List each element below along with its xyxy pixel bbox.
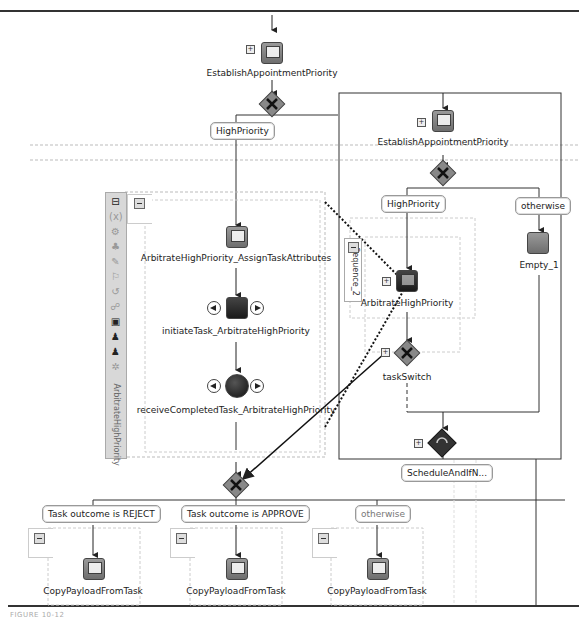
assign-node-reject[interactable] <box>83 558 105 580</box>
receive-node[interactable] <box>225 374 249 398</box>
next-arrow-icon[interactable] <box>250 379 264 393</box>
expand-icon[interactable]: + <box>414 439 423 448</box>
fault-handlers-icon[interactable]: ⚐ <box>109 270 122 283</box>
activity-label: EstablishAppointmentPriority <box>207 68 338 78</box>
activity-label: ArbitrateHighPriority_AssignTaskAttribut… <box>141 253 331 263</box>
case-reject[interactable]: Task outcome is REJECT <box>42 505 161 523</box>
invoke-node-establish-priority[interactable] <box>261 42 283 64</box>
event-handlers-icon[interactable]: ☍ <box>109 300 122 313</box>
human-task-node[interactable] <box>396 270 418 292</box>
correlation-icon[interactable]: ⚙ <box>109 225 122 238</box>
figure-caption: FIGURE 10-12 <box>10 611 65 619</box>
next-arrow-icon[interactable] <box>250 301 264 315</box>
human-task-alt-icon[interactable]: ♟ <box>109 345 122 358</box>
invoke-node-initiate-task[interactable] <box>226 297 248 319</box>
collapse-icon[interactable] <box>348 242 359 253</box>
activity-label: Empty_1 <box>519 260 558 270</box>
prev-arrow-icon[interactable] <box>207 379 221 393</box>
activity-label: CopyPayloadFromTask <box>327 586 427 596</box>
assign-node-otherwise[interactable] <box>367 558 389 580</box>
variables-icon[interactable]: (x) <box>109 210 122 223</box>
expand-icon[interactable]: + <box>417 118 426 127</box>
case-approve[interactable]: Task outcome is APPROVE <box>181 505 310 523</box>
scope-name-tab: ArbitrateHighPriority <box>108 383 124 453</box>
assign-node[interactable] <box>226 226 248 248</box>
collapse-icon[interactable] <box>318 533 329 544</box>
partner-links-icon[interactable]: ♣ <box>109 240 122 253</box>
collapse-icon[interactable] <box>176 533 187 544</box>
top-switch-gateway <box>259 91 284 116</box>
termination-icon[interactable]: ▣ <box>109 315 122 328</box>
collapse-icon[interactable] <box>134 198 145 209</box>
while-label[interactable]: ScheduleAndIfN... <box>401 464 493 482</box>
case-high-priority[interactable]: HighPriority <box>210 122 275 140</box>
case-otherwise-inner[interactable]: otherwise <box>515 197 571 215</box>
activity-label: CopyPayloadFromTask <box>43 586 143 596</box>
expand-icon[interactable]: + <box>246 45 255 54</box>
invoke-node-establish-priority-inner[interactable] <box>432 110 454 132</box>
prev-arrow-icon[interactable] <box>207 301 221 315</box>
empty-node[interactable] <box>527 232 549 254</box>
compensation-icon[interactable]: ↺ <box>109 285 122 298</box>
activity-label: ArbitrateHighPriority <box>361 298 454 308</box>
case-otherwise[interactable]: otherwise <box>355 505 411 523</box>
scope-toolbar: ⊟ (x) ⚙ ♣ ✎ ⚐ ↺ ☍ ▣ ♟ ♟ ✲ ArbitrateHighP… <box>105 192 127 459</box>
collapse-icon[interactable]: ⊟ <box>109 195 122 208</box>
activity-label: CopyPayloadFromTask <box>186 586 286 596</box>
case-high-priority-inner[interactable]: HighPriority <box>381 195 446 213</box>
activity-label: initiateTask_ArbitrateHighPriority <box>162 326 310 336</box>
activity-label: taskSwitch <box>383 372 432 382</box>
diagram-connectors <box>0 0 579 622</box>
settings-icon[interactable]: ✲ <box>109 360 122 373</box>
collapse-icon[interactable] <box>34 533 45 544</box>
activity-label: EstablishAppointmentPriority <box>378 137 509 147</box>
activity-label: receiveCompletedTask_ArbitrateHighPriori… <box>137 405 336 415</box>
human-task-icon[interactable]: ♟ <box>109 330 122 343</box>
expand-icon[interactable]: + <box>381 348 390 357</box>
expand-icon[interactable]: + <box>382 277 391 286</box>
assign-node-approve[interactable] <box>226 558 248 580</box>
message-exchange-icon[interactable]: ✎ <box>109 255 122 268</box>
